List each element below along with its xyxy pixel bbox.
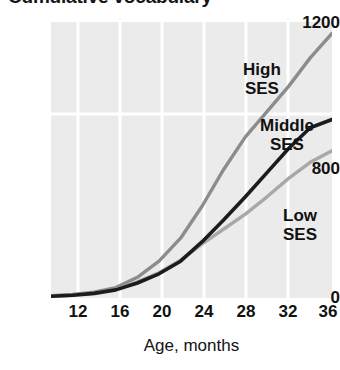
high-ses-label: High SES <box>243 60 281 98</box>
y-axis-tick-800: 800 <box>296 160 340 177</box>
high-ses-label-line1: High <box>243 60 281 79</box>
x-axis-tick-36: 36 <box>308 303 340 320</box>
middle-ses-label-line1: Middle <box>260 116 314 135</box>
low-ses-label: Low SES <box>283 206 317 244</box>
chart-figure: Cumulative vocabulary <box>0 0 340 370</box>
chart-title: Cumulative vocabulary <box>8 0 212 8</box>
low-ses-label-line1: Low <box>283 206 317 225</box>
y-axis-tick-1200: 1200 <box>296 14 340 31</box>
x-axis-tick-28: 28 <box>226 303 266 320</box>
plot-area <box>51 22 332 298</box>
low-ses-label-line2: SES <box>283 225 317 244</box>
series-line-high-ses <box>51 34 332 296</box>
x-axis-title: Age, months <box>51 337 332 354</box>
x-axis-tick-16: 16 <box>100 303 140 320</box>
x-axis-tick-20: 20 <box>142 303 182 320</box>
middle-ses-label-line2: SES <box>260 135 314 154</box>
x-axis-tick-24: 24 <box>184 303 224 320</box>
x-axis-tick-32: 32 <box>268 303 308 320</box>
x-axis-tick-12: 12 <box>58 303 98 320</box>
high-ses-label-line2: SES <box>243 79 281 98</box>
middle-ses-label: Middle SES <box>260 116 314 154</box>
data-series-group <box>51 22 332 298</box>
